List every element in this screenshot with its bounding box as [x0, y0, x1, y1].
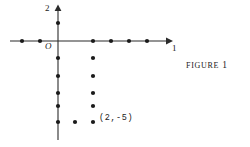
figure-caption-number: 1 — [222, 60, 227, 70]
lattice-dot — [145, 39, 149, 43]
lattice-dot — [127, 39, 131, 43]
y-axis-arrowhead — [55, 5, 62, 12]
lattice-dot — [73, 120, 77, 124]
lattice-dot — [91, 74, 95, 78]
lattice-dot — [20, 39, 24, 43]
lattice-dot — [91, 39, 95, 43]
lattice-dot — [91, 120, 95, 124]
figure-caption-word: Figure — [186, 58, 219, 70]
lattice-dot — [109, 39, 113, 43]
lattice-dot — [38, 39, 42, 43]
point-coordinate-label: (2,-5) — [99, 114, 133, 123]
lattice-dot — [56, 74, 60, 78]
lattice-dot — [56, 91, 60, 95]
lattice-dot — [56, 21, 60, 25]
origin-label: O — [45, 42, 52, 51]
lattice-dot — [56, 104, 60, 108]
lattice-dot — [91, 104, 95, 108]
lattice-dot — [91, 91, 95, 95]
lattice-dot — [91, 56, 95, 60]
coordinate-plot — [0, 0, 250, 147]
lattice-dot — [56, 120, 60, 124]
x-axis-label: 1 — [172, 44, 177, 53]
figure-caption: Figure 1 — [186, 58, 228, 70]
figure-container: 2 1 O (2,-5) Figure 1 — [0, 0, 250, 147]
y-axis-label: 2 — [45, 4, 50, 13]
lattice-dot — [56, 56, 60, 60]
